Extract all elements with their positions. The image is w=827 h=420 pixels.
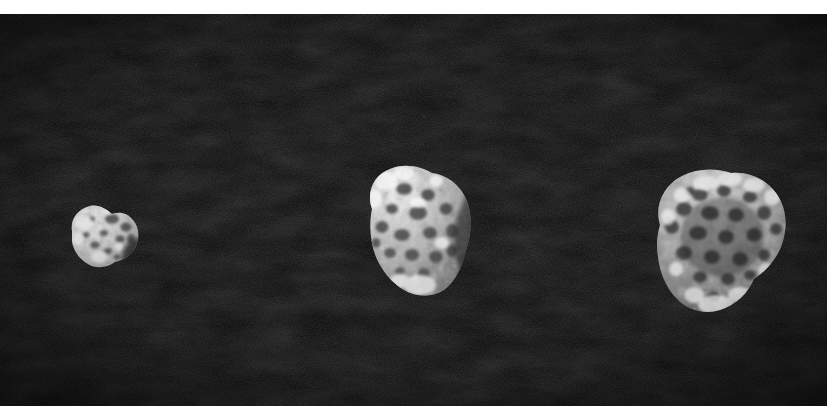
- top-margin-band: [0, 0, 827, 14]
- plate-canvas: [0, 13, 827, 407]
- vignette: [0, 13, 827, 407]
- bottom-margin-band: [0, 406, 827, 420]
- asteroid-comparison-plate: small elongated body medium ovoid crater…: [0, 0, 827, 420]
- photographic-field: [0, 13, 827, 407]
